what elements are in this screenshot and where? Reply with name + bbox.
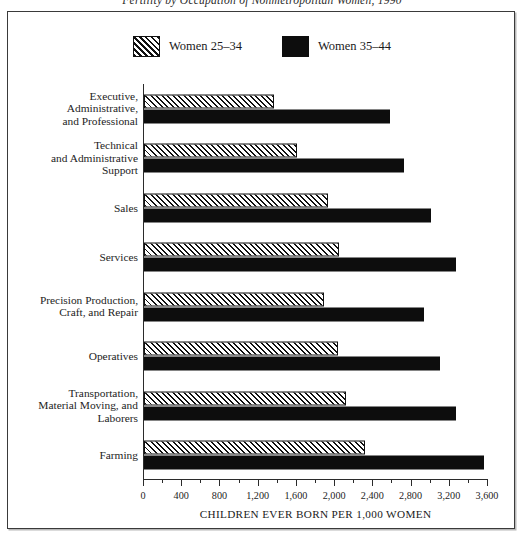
x-tick-minor [353, 479, 354, 483]
x-tick-major [334, 479, 335, 486]
bar-women-35-44 [144, 208, 431, 222]
category-label: Technical and Administrative Support [0, 139, 138, 177]
bar-group [144, 292, 504, 321]
legend-item-women-25-34: Women 25–34 [133, 36, 242, 57]
bar-group [144, 441, 504, 470]
x-tick-major [143, 479, 144, 486]
bar-women-35-44 [144, 307, 424, 321]
chart-legend: Women 25–34 Women 35–44 [0, 36, 524, 57]
bar-women-25-34 [144, 391, 346, 405]
bar-row: Farming [0, 431, 524, 481]
bar-women-25-34 [144, 193, 328, 207]
x-tick-major [296, 479, 297, 486]
category-label: Precision Production, Craft, and Repair [0, 294, 138, 319]
bar-row: Operatives [0, 332, 524, 382]
bar-women-25-34 [144, 441, 365, 455]
category-label: Sales [0, 201, 138, 214]
category-label: Farming [0, 449, 138, 462]
x-tick-minor [391, 479, 392, 483]
bar-women-35-44 [144, 159, 404, 173]
bar-group [144, 193, 504, 222]
bar-group [144, 144, 504, 173]
x-tick-major [411, 479, 412, 486]
bar-women-25-34 [144, 342, 338, 356]
category-label: Services [0, 251, 138, 264]
x-tick-major [372, 479, 373, 486]
category-label: Executive, Administrative, and Professio… [0, 90, 138, 128]
x-tick-minor [277, 479, 278, 483]
bar-women-25-34 [144, 292, 324, 306]
category-label: Transportation, Material Moving, and Lab… [0, 387, 138, 425]
x-tick-label: 2,800 [399, 490, 422, 501]
bar-group [144, 342, 504, 371]
x-tick-major [449, 479, 450, 486]
x-tick-label: 2,000 [323, 490, 346, 501]
bar-rows: Executive, Administrative, and Professio… [0, 84, 524, 480]
x-tick-major [181, 479, 182, 486]
solid-black-swatch-icon [282, 36, 309, 57]
x-tick-minor [200, 479, 201, 483]
bar-row: Technical and Administrative Support [0, 134, 524, 184]
hatched-swatch-icon [133, 36, 160, 57]
x-tick-major [219, 479, 220, 486]
x-tick-label: 3,600 [476, 490, 499, 501]
bar-women-25-34 [144, 94, 274, 108]
legend-label-women-35-44: Women 35–44 [318, 39, 391, 54]
x-tick-minor [468, 479, 469, 483]
x-tick-minor [430, 479, 431, 483]
bar-women-35-44 [144, 258, 456, 272]
bar-women-35-44 [144, 357, 440, 371]
x-tick-minor [239, 479, 240, 483]
bar-row: Executive, Administrative, and Professio… [0, 84, 524, 134]
x-tick-label: 0 [140, 490, 145, 501]
x-axis-caption: CHILDREN EVER BORN PER 1,000 WOMEN [143, 508, 488, 520]
figure-root: Fertility by Occupation of Nonmetropolit… [0, 0, 524, 541]
bar-group [144, 391, 504, 420]
x-tick-major [258, 479, 259, 486]
x-tick-label: 1,200 [246, 490, 269, 501]
bar-women-35-44 [144, 109, 390, 123]
bar-women-35-44 [144, 456, 484, 470]
x-tick-label: 3,200 [437, 490, 460, 501]
bar-row: Precision Production, Craft, and Repair [0, 282, 524, 332]
category-label: Operatives [0, 350, 138, 363]
bar-women-25-34 [144, 243, 339, 257]
x-tick-minor [162, 479, 163, 483]
bar-women-25-34 [144, 144, 297, 158]
legend-item-women-35-44: Women 35–44 [282, 36, 391, 57]
bar-group [144, 94, 504, 123]
x-tick-minor [315, 479, 316, 483]
x-tick-major [487, 479, 488, 486]
x-tick-label: 1,600 [284, 490, 307, 501]
x-tick-label: 400 [174, 490, 189, 501]
figure-title: Fertility by Occupation of Nonmetropolit… [0, 0, 524, 6]
bar-women-35-44 [144, 406, 456, 420]
legend-label-women-25-34: Women 25–34 [169, 39, 242, 54]
bar-row: Sales [0, 183, 524, 233]
bar-row: Services [0, 233, 524, 283]
x-tick-label: 2,400 [361, 490, 384, 501]
bar-group [144, 243, 504, 272]
x-tick-label: 800 [212, 490, 227, 501]
bar-row: Transportation, Material Moving, and Lab… [0, 381, 524, 431]
